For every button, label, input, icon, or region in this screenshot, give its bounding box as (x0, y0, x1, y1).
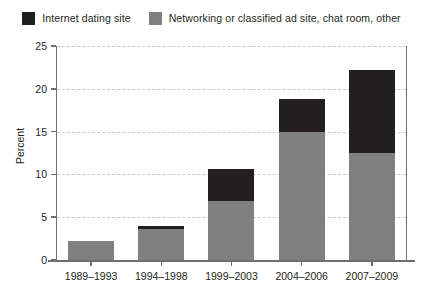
bar-segment-internet-dating-site (208, 169, 254, 201)
y-tick-10: 10 (0, 168, 56, 180)
legend-entry-networking-classified: Networking or classified ad site, chat r… (149, 12, 401, 25)
bar-group (138, 46, 184, 260)
x-tick-mark (231, 260, 233, 266)
y-axis-ticks: 0510152025 (0, 46, 56, 260)
legend-swatch-networking-classified (149, 12, 162, 25)
x-tick-holder (208, 260, 254, 268)
bar-segment-internet-dating-site (279, 99, 325, 132)
x-axis-labels: 1989–19931994–19981999–20032004–20062007… (56, 270, 407, 286)
y-tick-label-5: 5 (41, 211, 47, 223)
bar-group (279, 46, 325, 260)
y-tick-label-15: 15 (35, 126, 47, 138)
x-tick-mark (301, 260, 303, 266)
bar-group (349, 46, 395, 260)
bar-segment-networking-classified (138, 229, 184, 260)
x-tick-holder (279, 260, 325, 268)
y-tick-label-25: 25 (35, 40, 47, 52)
x-tick-mark (90, 260, 92, 266)
x-tick-holder (349, 260, 395, 268)
x-axis-label: 2004–2006 (267, 270, 337, 286)
y-tick-label-20: 20 (35, 83, 47, 95)
bar-group (68, 46, 114, 260)
legend-label-networking-classified: Networking or classified ad site, chat r… (169, 12, 401, 24)
x-tick-mark (161, 260, 163, 266)
bar-group (208, 46, 254, 260)
x-tick-holder (68, 260, 114, 268)
y-tick-5: 5 (0, 211, 56, 223)
bar-series-container (56, 46, 407, 260)
y-tick-label-0: 0 (41, 254, 47, 266)
y-tick-15: 15 (0, 126, 56, 138)
bar-segment-networking-classified (208, 201, 254, 260)
x-axis-ticks (56, 260, 407, 268)
x-tick-mark (371, 260, 373, 266)
y-tick-label-10: 10 (35, 168, 47, 180)
y-tick-20: 20 (0, 83, 56, 95)
bar-segment-networking-classified (279, 132, 325, 260)
legend-entry-internet-dating-site: Internet dating site (22, 12, 130, 25)
stacked-bar-chart: Internet dating site Networking or class… (0, 0, 423, 291)
bar-segment-networking-classified (68, 241, 114, 260)
legend-label-internet-dating-site: Internet dating site (42, 12, 130, 24)
bar-segment-internet-dating-site (349, 70, 395, 153)
x-axis-label: 2007–2009 (337, 270, 407, 286)
x-axis-label: 1994–1998 (126, 270, 196, 286)
x-axis-label: 1999–2003 (196, 270, 266, 286)
bar-segment-networking-classified (349, 153, 395, 260)
x-axis-label: 1989–1993 (56, 270, 126, 286)
x-tick-holder (138, 260, 184, 268)
chart-legend: Internet dating site Networking or class… (0, 6, 423, 30)
y-tick-25: 25 (0, 40, 56, 52)
legend-swatch-internet-dating-site (22, 12, 35, 25)
